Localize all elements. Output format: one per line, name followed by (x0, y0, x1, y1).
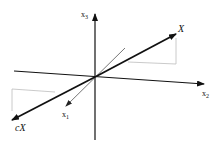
x2-axis (14, 71, 204, 84)
vector-X (95, 34, 176, 77)
vector-scaling-diagram: x3 x2 x1 X cX (0, 0, 223, 148)
x3-label: x3 (81, 10, 88, 20)
diagram-canvas: x3 x2 x1 X cX (0, 0, 223, 148)
projection-lines (12, 38, 176, 111)
x2-label: x2 (202, 89, 209, 99)
x1-label: x1 (62, 110, 69, 120)
X-label: X (177, 23, 185, 34)
cX-label: cX (15, 122, 26, 133)
vector-cX (12, 77, 95, 120)
